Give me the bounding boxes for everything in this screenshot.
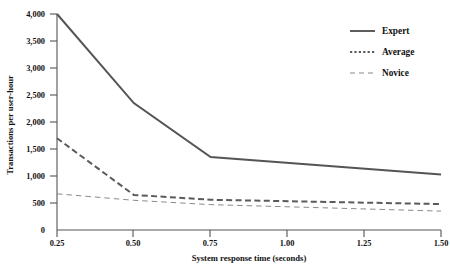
legend-label-average: Average [382,47,414,57]
y-axis-title: Transactions per user-hour [5,75,15,175]
y-tick-label: 3,500 [26,37,45,46]
y-tick-label: 4,000 [26,10,45,19]
x-tick-label: 0.25 [50,239,65,248]
x-tick-label: 1.00 [280,239,295,248]
series-line-expert [57,14,441,174]
y-tick-label: 2,500 [26,91,45,100]
series-line-average [57,138,441,204]
y-tick-label: 3,000 [26,64,45,73]
x-axis-title: System response time (seconds) [192,253,307,263]
legend: Expert Average Novice [350,26,414,78]
legend-label-novice: Novice [382,68,409,78]
page-bottom-artifact [6,269,306,275]
y-tick-labels: 4,000 3,500 3,000 2,500 2,000 1,500 1,00… [26,10,45,235]
series-group [57,14,441,211]
y-tick-label: 1,500 [26,145,45,154]
x-tick-label: 1.25 [357,239,372,248]
y-tick-label: 1,000 [26,172,45,181]
y-tick-label: 0 [41,226,45,235]
x-tick-label: 1.50 [434,239,449,248]
legend-label-expert: Expert [382,26,410,36]
x-tick-labels: 0.25 0.50 0.75 1.00 1.25 1.50 [50,239,449,248]
x-tick-marks [57,230,441,237]
y-tick-marks [50,14,57,203]
chart-svg: Transactions per user-hour 4,000 3,500 3… [0,0,450,275]
line-chart: Transactions per user-hour 4,000 3,500 3… [0,0,450,275]
y-tick-label: 500 [32,199,45,208]
x-tick-label: 0.50 [126,239,141,248]
series-line-novice [57,194,441,211]
y-tick-label: 2,000 [26,118,45,127]
x-tick-label: 0.75 [203,239,218,248]
